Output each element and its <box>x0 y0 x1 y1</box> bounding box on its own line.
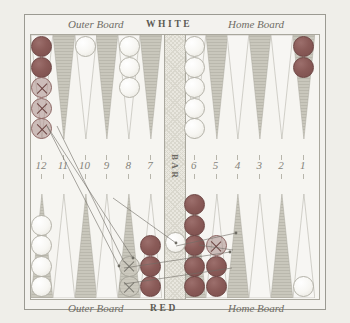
point-tick <box>194 174 195 179</box>
point-number-1: 1 <box>292 159 314 171</box>
x-mark-icon <box>120 277 139 296</box>
point-5[interactable] <box>206 35 228 139</box>
checker-white[interactable] <box>119 57 140 78</box>
point-tick <box>85 174 86 179</box>
checker-red[interactable] <box>293 57 314 78</box>
point-23[interactable] <box>271 194 293 298</box>
point-number-2: 2 <box>270 159 292 171</box>
point-tick <box>194 155 195 160</box>
point-tick <box>63 155 64 160</box>
x-mark-icon <box>32 78 51 97</box>
point-tick <box>303 155 304 160</box>
point-tick <box>41 174 42 179</box>
point-tick <box>150 174 151 179</box>
checker-red[interactable] <box>206 276 227 297</box>
point-number-9: 9 <box>95 159 117 171</box>
point-tick <box>259 155 260 160</box>
x-mark-icon <box>120 257 139 276</box>
point-number-8: 8 <box>117 159 139 171</box>
checker-red[interactable] <box>184 256 205 277</box>
checker-white[interactable] <box>75 36 96 57</box>
point-number-6: 6 <box>183 159 205 171</box>
checker-red-ghost[interactable] <box>206 235 227 256</box>
checker-white[interactable] <box>31 215 52 236</box>
checker-white-ghost[interactable] <box>119 276 140 297</box>
point-tick <box>281 174 282 179</box>
point-number-5: 5 <box>205 159 227 171</box>
point-tick <box>128 174 129 179</box>
point-9[interactable] <box>96 35 118 139</box>
point-14[interactable] <box>53 194 75 298</box>
checker-white[interactable] <box>31 256 52 277</box>
point-21[interactable] <box>227 194 249 298</box>
x-mark-icon <box>32 119 51 138</box>
checker-red[interactable] <box>293 36 314 57</box>
x-mark-icon <box>207 236 226 255</box>
point-3[interactable] <box>249 35 271 139</box>
point-tick <box>216 155 217 160</box>
point-tick <box>106 155 107 160</box>
point-tick <box>106 174 107 179</box>
checker-white[interactable] <box>184 36 205 57</box>
point-number-11: 11 <box>52 159 74 171</box>
point-tick <box>150 155 151 160</box>
checker-red[interactable] <box>184 235 205 256</box>
backgammon-board-figure: Outer Board WHITE Home Board Outer Board… <box>0 0 350 323</box>
point-tick <box>237 174 238 179</box>
checker-white[interactable] <box>119 77 140 98</box>
point-tick <box>303 174 304 179</box>
checker-red[interactable] <box>140 256 161 277</box>
point-15[interactable] <box>75 194 97 298</box>
point-tick <box>281 155 282 160</box>
checker-red-ghost[interactable] <box>31 118 52 139</box>
point-number-12: 12 <box>30 159 52 171</box>
checker-red[interactable] <box>31 57 52 78</box>
checker-white[interactable] <box>184 57 205 78</box>
point-number-10: 10 <box>74 159 96 171</box>
point-16[interactable] <box>96 194 118 298</box>
point-number-3: 3 <box>248 159 270 171</box>
checker-white[interactable] <box>184 118 205 139</box>
checker-white-ghost[interactable] <box>119 256 140 277</box>
point-tick <box>216 174 217 179</box>
point-tick <box>259 174 260 179</box>
point-tick <box>63 174 64 179</box>
checker-red[interactable] <box>184 194 205 215</box>
point-2[interactable] <box>271 35 293 139</box>
point-11[interactable] <box>53 35 75 139</box>
point-7[interactable] <box>140 35 162 139</box>
point-tick <box>41 155 42 160</box>
point-22[interactable] <box>249 194 271 298</box>
point-tick <box>237 155 238 160</box>
checker-white[interactable] <box>184 98 205 119</box>
checker-red[interactable] <box>206 256 227 277</box>
checker-white[interactable] <box>184 77 205 98</box>
point-number-4: 4 <box>226 159 248 171</box>
point-number-strip: 121110987654321 <box>30 155 320 179</box>
checker-white[interactable] <box>293 276 314 297</box>
checker-white[interactable] <box>165 232 186 253</box>
checker-red-ghost[interactable] <box>31 98 52 119</box>
checker-red-ghost[interactable] <box>31 77 52 98</box>
point-number-7: 7 <box>139 159 161 171</box>
checker-white[interactable] <box>119 36 140 57</box>
checker-red[interactable] <box>184 215 205 236</box>
x-mark-icon <box>32 99 51 118</box>
point-tick <box>128 155 129 160</box>
checker-red[interactable] <box>184 276 205 297</box>
point-tick <box>85 155 86 160</box>
point-4[interactable] <box>227 35 249 139</box>
